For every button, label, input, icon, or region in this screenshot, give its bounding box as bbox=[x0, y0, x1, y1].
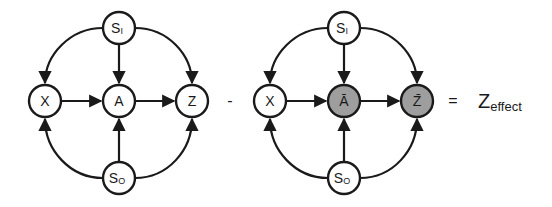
z-effect-label: Zeffect bbox=[478, 90, 522, 114]
node-x: X bbox=[254, 85, 286, 117]
svg-text:Z̄: Z̄ bbox=[413, 93, 422, 109]
equals-operator: = bbox=[448, 92, 457, 109]
node-s-i: SI bbox=[328, 12, 360, 44]
node-a-bar: Ā bbox=[328, 85, 360, 117]
edge-so-z bbox=[135, 119, 192, 178]
edge-so-x bbox=[270, 119, 328, 178]
node-a: A bbox=[103, 85, 135, 117]
node-z-bar: Z̄ bbox=[401, 85, 433, 117]
edge-so-z-bar bbox=[360, 119, 417, 178]
node-x: X bbox=[29, 85, 61, 117]
svg-text:A: A bbox=[114, 93, 124, 109]
node-s-o: SO bbox=[328, 162, 360, 194]
edge-si-z-bar bbox=[360, 28, 417, 83]
edge-si-x bbox=[45, 28, 103, 83]
svg-text:X: X bbox=[40, 93, 50, 109]
svg-text:X: X bbox=[265, 93, 275, 109]
edge-si-z bbox=[135, 28, 192, 83]
node-z: Z bbox=[176, 85, 208, 117]
counterfactual-graph: SI SO X Ā Z̄ bbox=[254, 12, 433, 194]
node-s-o: SO bbox=[103, 162, 135, 194]
svg-text:Z: Z bbox=[188, 93, 197, 109]
causal-effect-diagram: SI SO X A Z - SI bbox=[0, 0, 552, 207]
edge-si-x bbox=[270, 28, 328, 83]
svg-text:Ā: Ā bbox=[339, 93, 349, 109]
original-graph: SI SO X A Z bbox=[29, 12, 208, 194]
node-s-i: SI bbox=[103, 12, 135, 44]
minus-operator: - bbox=[227, 92, 232, 109]
edge-so-x bbox=[45, 119, 103, 178]
